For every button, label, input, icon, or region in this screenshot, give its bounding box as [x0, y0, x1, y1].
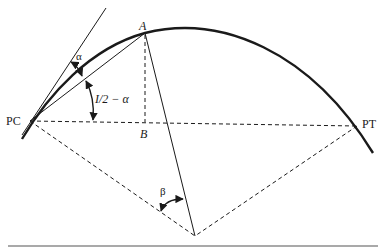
label-point-b: B [140, 127, 148, 141]
label-angle-alpha: α [76, 50, 82, 62]
curve-diagram: PC PT A B α I/2 − α β [0, 0, 388, 252]
chord-pc-a [30, 33, 145, 121]
line-a-center [145, 33, 195, 236]
curve-arc [22, 28, 373, 153]
angle-beta-arc [161, 199, 183, 211]
radius-pt-center [195, 126, 357, 236]
label-point-a: A [138, 19, 147, 33]
label-angle-beta: β [160, 185, 166, 197]
radius-pc-center [30, 121, 195, 236]
label-pt: PT [362, 117, 377, 131]
label-angle-half-i: I/2 − α [94, 92, 129, 106]
long-chord-pc-pt [30, 121, 357, 126]
label-pc: PC [6, 114, 21, 128]
angle-half-i-arc [86, 81, 93, 120]
